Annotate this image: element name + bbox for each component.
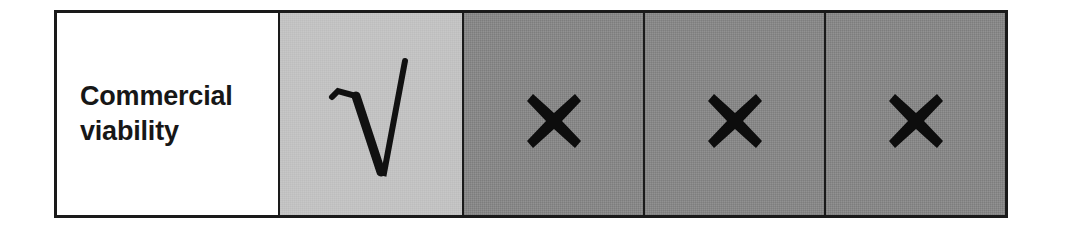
figure-canvas: Commercial viability (0, 0, 1065, 237)
criterion-label-text: Commercial viability (80, 79, 233, 148)
rating-cell-1 (278, 13, 462, 215)
cross-icon (525, 92, 583, 150)
comparison-matrix-row: Commercial viability (54, 10, 1008, 218)
cross-icon (887, 92, 945, 150)
rating-cell-3 (643, 13, 824, 215)
cross-icon (706, 92, 764, 150)
rating-cell-2 (462, 13, 643, 215)
check-icon (326, 53, 422, 181)
rating-cell-4 (824, 13, 1005, 215)
criterion-label-cell: Commercial viability (57, 13, 278, 215)
